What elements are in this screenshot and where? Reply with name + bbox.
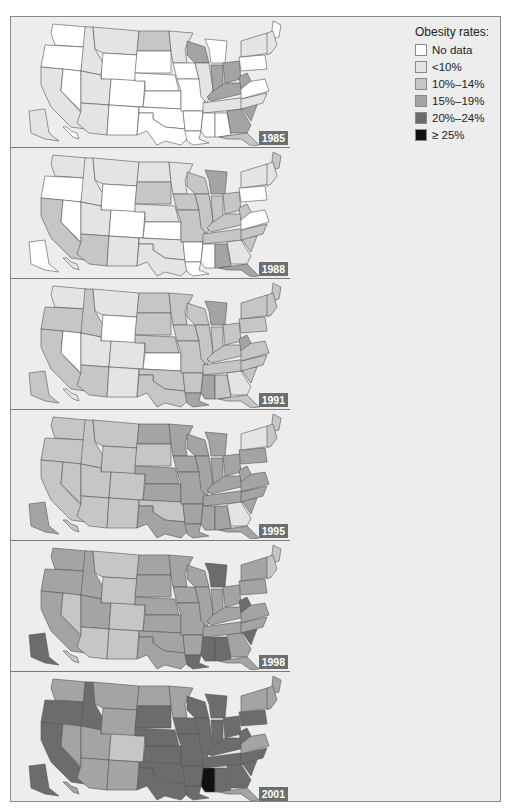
state-nm (107, 105, 139, 135)
state-or (41, 176, 85, 202)
state-or (41, 700, 85, 726)
state-or (41, 569, 85, 595)
legend-swatch (415, 129, 427, 141)
legend-item: <10% (415, 59, 505, 75)
legend-swatch (415, 95, 427, 107)
state-or (41, 45, 85, 71)
legend-item: 20%–24% (415, 110, 505, 126)
legend-label: No data (432, 44, 472, 56)
state-ks (143, 615, 181, 633)
state-oh (223, 716, 241, 738)
year-label: 1998 (259, 655, 288, 669)
state-ia (173, 325, 199, 341)
state-pa (239, 579, 267, 595)
state-ms (201, 768, 215, 792)
legend-label: ≥ 25% (432, 129, 465, 141)
us-map (15, 150, 283, 277)
state-ia (173, 456, 199, 472)
state-wy (101, 53, 137, 81)
map-panel-1985: 1985 (11, 17, 290, 148)
state-nd (137, 424, 171, 444)
legend-swatch (415, 112, 427, 124)
state-az (77, 496, 109, 528)
state-ms (201, 113, 215, 137)
state-hi (63, 389, 79, 401)
state-pa (239, 317, 267, 333)
legend-swatch (415, 44, 427, 56)
state-co (109, 603, 145, 631)
state-hi (63, 782, 79, 794)
state-oh (223, 585, 241, 607)
state-az (77, 758, 109, 790)
state-ia (173, 587, 199, 603)
state-ny (241, 426, 271, 450)
state-ar (183, 242, 203, 262)
figure-frame: Obesity rates: No data<10%10%–14%15%–19%… (10, 16, 501, 802)
state-ak (29, 764, 59, 796)
state-ks (143, 91, 181, 109)
state-co (109, 734, 145, 762)
year-label: 2001 (259, 787, 288, 801)
legend-item: ≥ 25% (415, 127, 505, 143)
state-ar (183, 504, 203, 524)
state-ak (29, 502, 59, 534)
state-sd (135, 51, 171, 73)
state-sd (135, 444, 171, 466)
state-wi (187, 41, 209, 63)
state-nd (137, 31, 171, 51)
us-map (15, 543, 283, 670)
state-wy (101, 184, 137, 212)
legend-label: <10% (432, 61, 462, 73)
state-wi (187, 434, 209, 456)
state-wa (51, 679, 87, 702)
state-nm (107, 498, 139, 528)
state-ny (241, 557, 271, 581)
state-wy (101, 708, 137, 736)
state-ar (183, 635, 203, 655)
state-ny (241, 688, 271, 712)
state-nd (137, 555, 171, 575)
state-az (77, 365, 109, 397)
state-ak (29, 371, 59, 403)
state-oh (223, 61, 241, 83)
state-pa (239, 710, 267, 726)
state-wi (187, 565, 209, 587)
state-az (77, 627, 109, 659)
state-wy (101, 446, 137, 474)
state-ak (29, 633, 59, 665)
legend-swatch (415, 61, 427, 73)
state-nd (137, 162, 171, 182)
state-co (109, 210, 145, 238)
legend-item: No data (415, 42, 505, 58)
state-wa (51, 286, 87, 309)
state-or (41, 438, 85, 464)
us-map (15, 412, 283, 539)
legend-label: 15%–19% (432, 95, 484, 107)
legend-title: Obesity rates: (415, 25, 505, 39)
state-nm (107, 629, 139, 659)
state-ny (241, 295, 271, 319)
state-ak (29, 240, 59, 272)
state-az (77, 103, 109, 135)
state-ks (143, 222, 181, 240)
year-label: 1995 (259, 524, 288, 538)
state-co (109, 341, 145, 369)
state-nd (137, 293, 171, 313)
state-oh (223, 454, 241, 476)
state-wi (187, 303, 209, 325)
state-nm (107, 367, 139, 397)
state-co (109, 472, 145, 500)
state-mt (93, 289, 139, 317)
map-panel-1995: 1995 (11, 410, 290, 541)
state-or (41, 307, 85, 333)
state-ar (183, 373, 203, 393)
year-label: 1985 (259, 131, 288, 145)
state-hi (63, 258, 79, 270)
state-mt (93, 682, 139, 710)
state-wa (51, 155, 87, 178)
map-panel-1988: 1988 (11, 148, 290, 279)
year-label: 1988 (259, 262, 288, 276)
map-panel-1998: 1998 (11, 541, 290, 672)
state-ia (173, 718, 199, 734)
state-nd (137, 686, 171, 706)
